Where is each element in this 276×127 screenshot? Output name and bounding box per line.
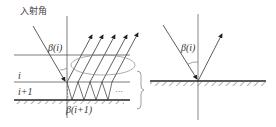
angle-arc	[60, 68, 67, 70]
beta-i-label: β(i)	[48, 42, 62, 53]
surface-hatch-right	[150, 81, 266, 86]
incident-ray	[33, 26, 65, 81]
right-panel	[150, 14, 266, 120]
incident-angle-label: 入射角	[20, 4, 47, 17]
left-panel	[14, 16, 144, 118]
layer-i-label: i	[18, 70, 21, 81]
diagram-svg	[0, 0, 276, 127]
ellipsis-label: ···	[115, 87, 123, 96]
layer-brace	[137, 71, 144, 109]
reflection-diagram: 入射角 β(i) i i+1 β(i+1) ··· β(i)	[0, 0, 276, 127]
layer-i1-label: i+1	[18, 86, 33, 97]
beta-i-label-right: β(i)	[181, 42, 195, 53]
angle-arc-right	[188, 62, 198, 64]
beta-i1-label: β(i+1)	[66, 104, 92, 115]
reflected-ray-right	[198, 34, 222, 81]
zigzag-ray	[67, 82, 112, 100]
